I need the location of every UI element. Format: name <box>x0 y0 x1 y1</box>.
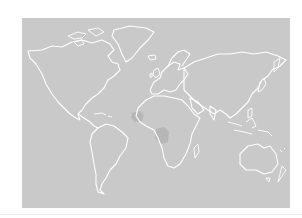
world-map <box>22 18 290 208</box>
iceland <box>148 55 156 60</box>
kamchatka <box>274 58 280 72</box>
caribbean-islands <box>94 113 112 117</box>
bottom-divider <box>0 214 302 215</box>
asia-coastline <box>184 52 286 118</box>
highlight-west-africa <box>131 111 144 122</box>
central-america-coastline <box>78 114 98 128</box>
greenland-coastline <box>112 26 154 62</box>
tasmania <box>266 178 270 182</box>
philippines <box>248 108 252 118</box>
south-america-coastline <box>90 124 128 194</box>
british-isles <box>150 68 160 78</box>
arctic-islands <box>68 28 104 46</box>
world-map-svg <box>22 18 290 208</box>
south-asia-coastline <box>190 98 216 120</box>
pacific-islands <box>280 148 285 152</box>
australia-coastline <box>240 144 278 174</box>
madagascar <box>194 144 199 158</box>
north-america-coastline <box>28 40 120 120</box>
japan <box>258 78 266 92</box>
new-zealand <box>278 166 286 182</box>
southeast-asia-islands <box>228 118 272 136</box>
